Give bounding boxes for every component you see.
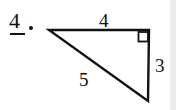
side-label-hypotenuse: 5 bbox=[79, 70, 89, 89]
geometry-figure: 4 4 3 5 bbox=[0, 0, 176, 110]
right-angle-square-icon bbox=[139, 32, 149, 42]
side-label-top: 4 bbox=[99, 11, 109, 30]
side-label-right: 3 bbox=[155, 56, 165, 75]
triangle-outline bbox=[49, 30, 149, 101]
right-triangle-drawing bbox=[0, 0, 176, 110]
